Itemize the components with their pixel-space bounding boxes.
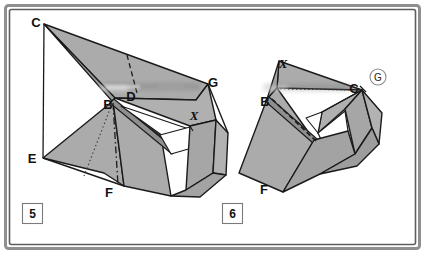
fig5-label-E: E: [28, 151, 37, 166]
fig6-circled-marker-G: G: [370, 69, 386, 85]
fig6-label-C: C: [349, 81, 359, 96]
watermark-streak-fig6: [262, 86, 288, 91]
fig5-label-D: D: [126, 89, 135, 104]
step-5-number: 5: [29, 207, 36, 221]
fig5-left-body-panel: [43, 101, 124, 186]
fig6-label-X: X: [278, 56, 288, 71]
diagram-page: C B D E F G X: [0, 0, 425, 254]
fig5-label-C: C: [31, 15, 41, 30]
fig5-label-B: B: [103, 97, 112, 112]
fig6-label-F: F: [260, 182, 268, 197]
fig6-label-B: B: [260, 94, 269, 109]
origami-diagram: C B D E F G X: [0, 0, 425, 254]
step-number-box-5: 5: [23, 204, 43, 224]
figure-5-model: [43, 24, 228, 197]
figure-6-model: [239, 61, 382, 192]
fig5-label-G: G: [208, 75, 218, 90]
fig5-edge-c-e: [43, 24, 44, 158]
fig5-label-X: X: [189, 108, 199, 123]
fig5-label-F: F: [105, 185, 113, 200]
step-number-box-6: 6: [223, 204, 243, 224]
watermark-streak-fig5: [98, 86, 128, 91]
step-6-number: 6: [229, 207, 236, 221]
fig6-label-G: G: [374, 72, 382, 83]
